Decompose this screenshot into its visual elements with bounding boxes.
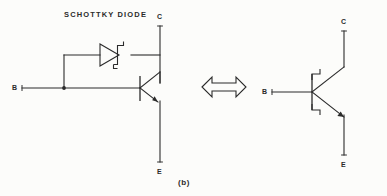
left-collector-label: C xyxy=(157,13,162,20)
right-collector-lead xyxy=(312,67,344,92)
left-circuit-group xyxy=(22,26,162,162)
right-emitter-label: E xyxy=(341,161,346,168)
right-collector-label: C xyxy=(341,18,346,25)
transistor-collector-lead xyxy=(140,72,160,88)
emitter-arrowhead xyxy=(152,96,158,102)
diode-triangle xyxy=(100,44,119,66)
left-emitter-label: E xyxy=(157,168,162,175)
diode-cathode-lower-hook xyxy=(114,65,118,69)
right-circuit-group xyxy=(272,31,346,155)
schottky-diode-title: SCHOTTKY DIODE xyxy=(64,11,147,19)
base-junction-dot xyxy=(62,86,66,90)
right-emitter-lead xyxy=(312,92,344,117)
equivalence-arrow-group xyxy=(202,77,246,97)
right-base-label: B xyxy=(262,88,267,95)
figure-canvas: SCHOTTKY DIODE C B E B C E (b) xyxy=(0,0,387,196)
circuit-diagram-svg xyxy=(0,0,387,196)
double-headed-arrow xyxy=(202,77,246,97)
figure-caption: (b) xyxy=(178,179,190,187)
left-base-label: B xyxy=(12,84,17,91)
right-base-top-hook xyxy=(312,69,320,80)
right-base-bottom-hook xyxy=(312,104,320,115)
